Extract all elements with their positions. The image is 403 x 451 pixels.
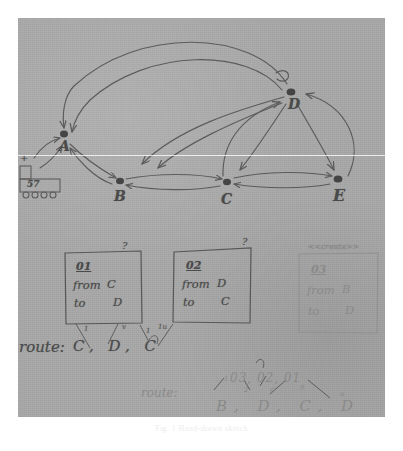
box-02-from-value: D	[217, 276, 226, 290]
edge-B-A	[70, 148, 112, 184]
route-nodes-tick-4: 1u	[158, 323, 167, 331]
screenshot-root: A B C D E + 57 ? ? 01 from C to D 02 fro…	[0, 0, 403, 451]
edge-C-B	[126, 185, 220, 190]
edge-note-A	[34, 138, 60, 158]
box-01-from-label: from	[73, 278, 101, 292]
edge-D-E	[297, 104, 334, 170]
box-01-id: 01	[76, 260, 91, 273]
box-02-to-label: to	[183, 295, 195, 309]
node-dot-A	[60, 131, 68, 138]
node-label-A: A	[59, 138, 70, 154]
edge-B-C	[126, 175, 222, 180]
node-dot-C	[223, 179, 231, 185]
route-requests-tick-4: 9	[300, 384, 304, 392]
route-requests-tick-2: 2	[244, 386, 248, 394]
box-01-from-value: C	[107, 277, 116, 291]
box-03-from-value: B	[342, 282, 350, 296]
node-label-B: B	[114, 188, 126, 204]
question-mark-2: ?	[242, 236, 247, 247]
route-nodes-value: C, D, C	[73, 337, 161, 355]
question-mark-1: ?	[122, 240, 127, 251]
edge-D-C	[240, 104, 286, 170]
box-01-to-value: D	[113, 295, 122, 309]
route-nodes-tick-1: 1	[84, 325, 88, 333]
node-label-E: E	[333, 186, 345, 205]
box-03-to-label: to	[308, 304, 320, 318]
edge-E-C	[234, 184, 330, 188]
edge-D-B-2	[158, 103, 282, 168]
route-requests-expanded: B, D, C, D	[216, 397, 360, 415]
route-nodes-label: route:	[19, 338, 65, 356]
box-03-id: 03	[311, 263, 326, 276]
box-03-stereotype: <<create>>	[308, 242, 359, 251]
paper-sheet: A B C D E + 57 ? ? 01 from C to D 02 fro…	[18, 18, 385, 417]
node-label-D: D	[288, 96, 300, 112]
box-connectors	[76, 324, 330, 398]
box-02-to-value: C	[221, 294, 230, 308]
box-01-to-label: to	[74, 296, 86, 310]
route-requests-tick-1: 1	[224, 375, 228, 383]
box-03-from-label: from	[307, 283, 335, 297]
edge-D-B-1	[142, 97, 284, 164]
route-requests-tick-5: u	[340, 390, 345, 398]
node-dot-B	[116, 178, 124, 184]
figure-caption: Fig. 1 Hand-drawn sketch	[0, 424, 403, 433]
node-dot-D	[287, 88, 296, 95]
sketch-ink-layer	[18, 18, 385, 417]
node-dot-E	[334, 175, 343, 182]
plus-mark: +	[20, 152, 28, 163]
route-requests-value: 03, 02, 01	[230, 371, 301, 385]
train-value: 57	[27, 179, 40, 189]
edge-hook-D	[276, 71, 288, 81]
edge-E-D	[306, 94, 354, 176]
box-02-from-label: from	[182, 277, 210, 291]
box-03-to-value: D	[345, 303, 354, 317]
route-nodes-tick-2: v	[122, 323, 126, 331]
route-requests-label: route:	[141, 386, 178, 400]
route-nodes-tick-3: 1	[146, 327, 150, 335]
node-label-C: C	[221, 191, 232, 207]
box-02-id: 02	[186, 259, 201, 272]
route-requests-tick-3: 6	[270, 387, 274, 395]
edge-C-E	[234, 172, 332, 178]
edge-D-A-2	[72, 60, 282, 132]
train-doodle-ink	[20, 166, 60, 198]
